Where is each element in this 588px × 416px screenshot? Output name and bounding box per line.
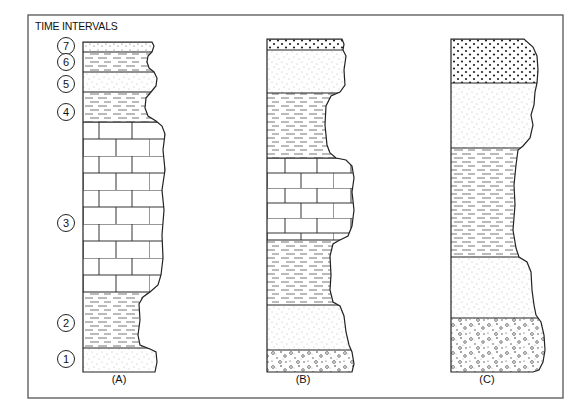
diagram-title: TIME INTERVALS — [35, 20, 118, 32]
column-label: (A) — [112, 373, 127, 385]
layer-shale — [267, 240, 358, 305]
interval-number: 6 — [63, 56, 69, 68]
interval-marker-6: 6 — [58, 54, 75, 71]
interval-marker-4: 4 — [58, 104, 75, 121]
layer-shale — [83, 292, 169, 348]
stratigraphic-diagram: TIME INTERVALS 7654321 (A)(B)(C) — [0, 0, 588, 416]
layer-sand — [267, 305, 358, 350]
column-b: (B) — [267, 39, 358, 385]
layer-sand — [451, 83, 549, 148]
interval-marker-2: 2 — [58, 315, 75, 332]
layer-coarse-sand-fine — [83, 42, 169, 52]
layer-shale — [267, 93, 358, 158]
interval-number: 7 — [63, 40, 69, 52]
layer-coarse-sand — [451, 39, 549, 83]
interval-number: 5 — [63, 78, 69, 90]
column-c: (C) — [451, 39, 549, 385]
layer-shale — [83, 92, 169, 122]
layer-conglomerate — [451, 318, 549, 372]
interval-number: 2 — [63, 317, 69, 329]
interval-marker-7: 7 — [58, 38, 75, 55]
interval-marker-5: 5 — [58, 76, 75, 93]
layer-shale — [83, 52, 169, 72]
layer-conglomerate — [267, 350, 358, 372]
layer-shale — [451, 148, 549, 257]
interval-number: 1 — [63, 353, 69, 365]
stratigraphic-columns: (A)(B)(C) — [83, 39, 549, 385]
time-interval-markers: 7654321 — [58, 38, 75, 368]
column-a: (A) — [83, 42, 169, 385]
layer-limestone — [267, 158, 358, 240]
layer-limestone — [83, 122, 169, 292]
interval-marker-3: 3 — [58, 215, 75, 232]
interval-marker-1: 1 — [58, 351, 75, 368]
column-label: (C) — [479, 373, 494, 385]
interval-number: 3 — [63, 217, 69, 229]
interval-number: 4 — [63, 106, 69, 118]
column-label: (B) — [296, 373, 311, 385]
